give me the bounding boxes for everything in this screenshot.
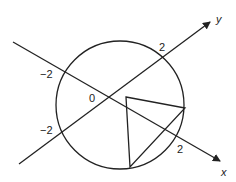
x-axis [13, 42, 220, 161]
x-neg-tick-label: −2 [40, 68, 53, 80]
y-axis-label: y [215, 13, 223, 25]
x-pos-tick-label: 2 [177, 143, 183, 155]
x-axis-label: x [220, 166, 227, 178]
triangle [126, 97, 185, 167]
origin-label: 0 [89, 92, 95, 104]
circle [56, 41, 184, 169]
y-neg-tick-label: −2 [40, 124, 53, 136]
coordinate-diagram: y x 0 2 −2 −2 2 [0, 0, 236, 182]
y-pos-tick-label: 2 [159, 41, 165, 53]
